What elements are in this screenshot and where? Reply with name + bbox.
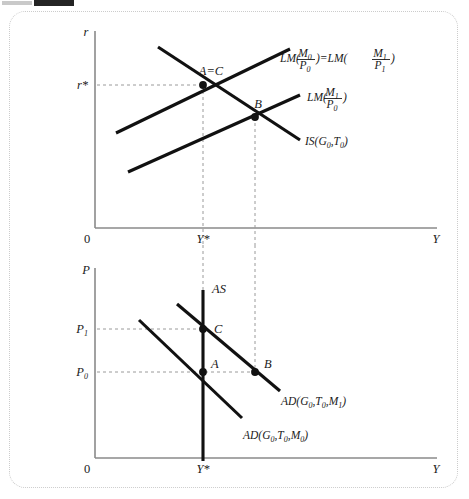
toolbar-segment-dark (34, 0, 74, 6)
top-toolbar-strip (0, 0, 78, 8)
figure-card (9, 11, 458, 488)
toolbar-segment-light (2, 1, 32, 5)
